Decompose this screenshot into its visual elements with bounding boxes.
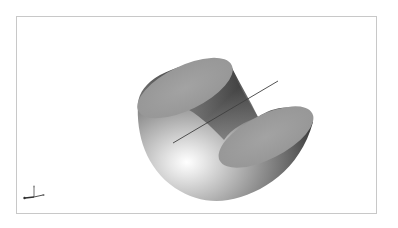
model-scene[interactable] xyxy=(0,0,398,228)
xyz-axis-triad-icon xyxy=(22,184,46,204)
